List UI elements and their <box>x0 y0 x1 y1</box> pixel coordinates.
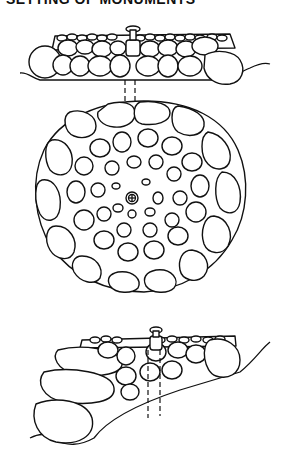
slope-view <box>30 327 270 444</box>
monument-marker <box>126 192 138 204</box>
monument-diagram <box>0 0 288 453</box>
plan-view <box>36 101 246 292</box>
elevation-view <box>20 26 270 102</box>
